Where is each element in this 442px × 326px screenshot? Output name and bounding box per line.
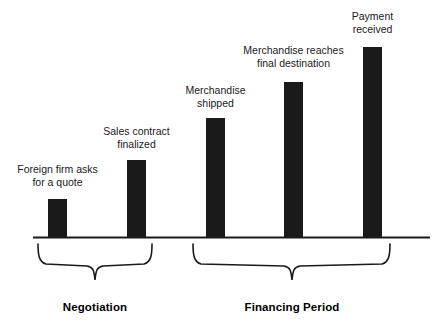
bar-label-line2: finalized [103,138,170,151]
bar-foreign-firm-asks-quote [48,199,67,237]
bar-label-merchandise-reaches-destination: Merchandise reaches final destination [243,44,343,69]
bar-merchandise-reaches-destination [284,82,303,237]
bar-sales-contract-finalized [127,160,146,237]
bar-label-line1: Merchandise [185,84,245,97]
bar-label-line2: final destination [243,57,343,70]
process-timeline-chart: Foreign firm asks for a quote Sales cont… [0,0,442,326]
bar-label-line1: Sales contract [103,125,170,138]
section-label-negotiation: Negotiation [63,301,127,313]
bar-payment-received [363,47,382,237]
brace-financing-period [193,244,390,280]
bar-label-line2: for a quote [17,176,98,189]
section-label-financing-period: Financing Period [245,301,340,313]
bar-label-line1: Foreign firm asks [17,163,98,176]
bar-label-payment-received: Payment received [352,10,393,35]
bar-label-line2: shipped [185,97,245,110]
bar-label-merchandise-shipped: Merchandise shipped [185,84,245,109]
bar-label-line2: received [352,23,393,36]
bar-label-foreign-firm-asks-quote: Foreign firm asks for a quote [17,163,98,188]
bar-merchandise-shipped [206,118,225,237]
bar-label-line1: Merchandise reaches [243,44,343,57]
bar-label-sales-contract-finalized: Sales contract finalized [103,125,170,150]
bar-label-line1: Payment [352,10,393,23]
brace-negotiation [38,244,152,280]
